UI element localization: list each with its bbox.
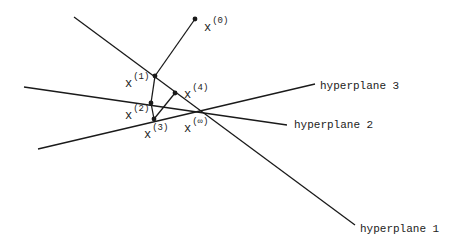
hyperplane-projection-diagram: hyperplane 1hyperplane 2hyperplane 3x(0)… — [0, 0, 454, 243]
labels: hyperplane 1hyperplane 2hyperplane 3x(0)… — [125, 16, 440, 235]
iteration-path — [151, 19, 195, 119]
point-xinf-label: x(∞) — [184, 117, 208, 136]
path-segment — [155, 19, 195, 76]
hyperplane-1-label: hyperplane 1 — [360, 223, 440, 235]
point-x4-label: x(4) — [184, 83, 208, 102]
point-x2-label: x(2) — [125, 104, 149, 123]
hyperplane-2-label: hyperplane 2 — [294, 119, 373, 131]
point-x0-label: x(0) — [204, 16, 228, 35]
path-segment — [151, 76, 155, 103]
point-x1-dot — [153, 74, 158, 79]
hyperplane-3-label: hyperplane 3 — [320, 80, 399, 92]
point-x1-label: x(1) — [125, 72, 149, 91]
point-x3-label: x(3) — [144, 123, 168, 142]
point-x4-dot — [173, 91, 178, 96]
point-x3-dot — [152, 117, 157, 122]
point-x0-dot — [193, 17, 198, 22]
